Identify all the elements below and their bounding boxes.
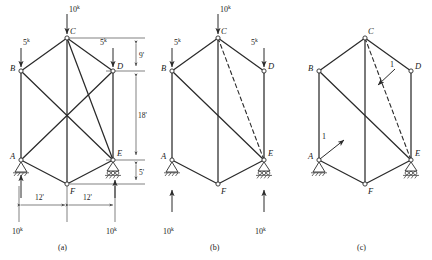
load-label-top-a: 10k [69,4,80,14]
caption-b: (b) [210,243,220,252]
dim-bottom-vertical: 5' [139,168,145,177]
joint-D [111,69,115,73]
unit-load-arrow-upper-right [378,69,395,85]
member-EF-b [218,160,264,184]
panel-a: A B C D E F 10k [9,4,148,252]
load-label-top-b: 10k [220,4,231,14]
joint-label-A-b: A [160,151,167,161]
force-unit-a1: k [77,4,80,10]
dim-top-vertical: 9' [139,51,145,60]
member-CE [67,38,113,160]
reaction-label-right-a: 10k [106,226,117,236]
joint-label-F-c: F [367,186,374,196]
joint-label-E-c: E [414,148,421,158]
joint-label-E: E [116,148,123,158]
joint-label-A-c: A [307,151,314,161]
reaction-left-value-b: 10 [163,227,171,236]
reaction-left-value-a: 10 [12,227,20,236]
member-FA [21,160,67,184]
reaction-label-left-b: 10k [163,226,174,236]
reaction-label-left-a: 10k [12,226,23,236]
member-BC-c [319,38,365,71]
dim-right-horizontal: 12' [83,193,93,202]
truss-members-c [319,38,411,184]
joint-B-b [170,69,174,73]
force-unit-a3: k [104,37,107,43]
member-EF [67,160,113,184]
force-unit-b1: k [228,4,231,10]
joint-label-C: C [70,26,76,36]
unit-load-label-lower-left: 1 [322,132,326,141]
joint-D-b [262,69,266,73]
force-unit-b5: k [263,226,266,232]
panel-b: A B C D E F 10k [160,4,275,252]
joint-label-B-b: B [161,63,166,73]
force-unit-a5: k [114,226,117,232]
force-unit-b3: k [255,37,258,43]
joint-label-D: D [116,61,124,71]
load-top-value-b: 10 [220,5,228,14]
member-FA-c [319,160,365,184]
load-top-value-a: 10 [69,5,77,14]
joint-label-C-c: C [368,26,374,36]
support-A-pin-b [164,162,180,176]
reaction-right-value-a: 10 [106,227,114,236]
joint-F-b [216,182,220,186]
member-CE-dashed-c [365,38,411,160]
joint-label-E-b: E [267,148,274,158]
dim-left-horizontal: 12' [35,193,45,202]
support-E-roller [105,162,121,178]
joint-label-D-b: D [267,61,275,71]
load-label-D-b: 5k [251,37,258,47]
force-unit-a4: k [20,226,23,232]
reaction-label-right-b: 10k [255,226,266,236]
panel-c: A B C D E F 1 [307,26,422,252]
joint-label-C-b: C [221,26,227,36]
joint-C-c [363,36,367,40]
joint-label-B-c: B [308,63,313,73]
support-E-roller-b [256,162,272,178]
joint-C [65,36,69,40]
truss-members-b [172,38,264,184]
joint-B-c [317,69,321,73]
truss-members-a [21,38,113,184]
joint-C-b [216,36,220,40]
support-A-pin [13,162,29,176]
force-unit-b2: k [178,37,181,43]
joint-D-c [409,69,413,73]
caption-c: (c) [357,243,366,252]
joint-label-A: A [9,151,16,161]
load-label-B-a: 5k [23,37,30,47]
support-E-roller-c [403,162,419,178]
member-FA-b [172,160,218,184]
force-unit-b4: k [171,226,174,232]
unit-load-arrow-lower-left [320,140,344,159]
joint-label-B: B [10,63,15,73]
joint-label-F-b: F [220,186,227,196]
joint-F [65,182,69,186]
support-A-pin-c [311,162,327,176]
load-label-D-a: 5k [100,37,107,47]
dim-mid-vertical: 18' [138,111,148,120]
unit-load-label-upper-right: 1 [390,60,394,69]
joint-label-D-c: D [414,61,422,71]
force-unit-a2: k [27,37,30,43]
member-CE-dashed-b [218,38,264,160]
joint-F-c [363,182,367,186]
member-EF-c [365,160,411,184]
reaction-right-value-b: 10 [255,227,263,236]
load-label-B-b: 5k [174,37,181,47]
joint-B [19,69,23,73]
truss-figure: A B C D E F 10k [0,0,432,260]
caption-a: (a) [58,243,67,252]
member-CD-c [365,38,411,71]
joint-label-F: F [69,186,76,196]
